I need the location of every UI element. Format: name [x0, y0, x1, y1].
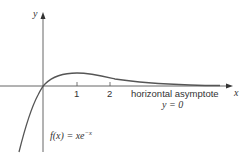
function-label-exponent: −x [85, 129, 92, 136]
function-label-main: f(x) = xe [50, 130, 85, 142]
asymptote-label: horizontal asymptote [131, 88, 219, 99]
x-axis-arrow-icon [226, 84, 233, 89]
asymptote-equation: y = 0 [161, 99, 183, 110]
x-axis-label: x [233, 87, 239, 98]
y-axis-label: y [32, 8, 38, 19]
function-plot: x y 1 2 horizontal asymptote y = 0 f(x) … [0, 0, 242, 166]
y-axis-arrow-icon [41, 12, 46, 19]
tick-label-2: 2 [107, 88, 112, 99]
tick-label-1: 1 [74, 88, 79, 99]
function-label: f(x) = xe−x [50, 129, 92, 142]
